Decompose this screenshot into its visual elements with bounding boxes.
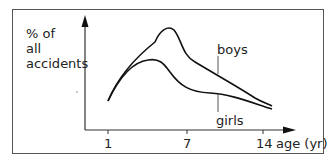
- tick-label-14: 14: [256, 136, 273, 151]
- girls-curve: [108, 60, 272, 109]
- girls-label: girls: [216, 113, 244, 128]
- stray-dot: [76, 91, 77, 92]
- boys-label: boys: [217, 42, 248, 57]
- y-axis-label-line1: % of: [26, 26, 86, 41]
- x-axis-arrow-icon: [283, 127, 296, 134]
- y-axis-label-line3: accidents: [26, 56, 86, 71]
- tick-label-1: 1: [104, 136, 112, 151]
- tick-label-7: 7: [183, 136, 191, 151]
- y-axis-label-line2: all: [26, 41, 86, 56]
- x-axis-label: age (yr): [276, 136, 328, 151]
- y-axis-label: % of all accidents: [26, 26, 86, 71]
